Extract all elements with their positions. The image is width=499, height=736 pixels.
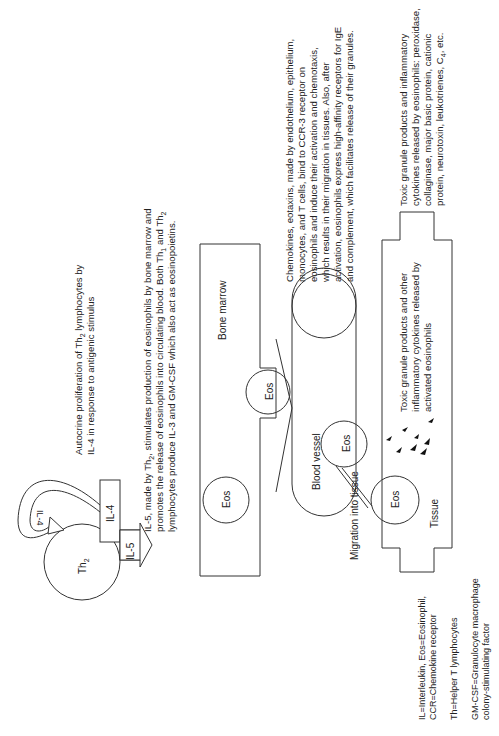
svg-text:IL-4 in response to antigenic: IL-4 in response to antigenic stimulus [85, 296, 96, 455]
tissue-label: Tissue [429, 498, 440, 528]
eosinophil-pathway-diagram: Th2 IL-4 IL-4 IL-5 Bone marrow Eos Eos B… [0, 0, 499, 736]
legend-gmcsf: GM-CSF=Granulocyte macrophage [470, 578, 480, 720]
released-granules [386, 418, 434, 455]
legend-th: Th=Helper T lymphocytes [449, 617, 459, 720]
svg-text:cytokines released by eosinoph: cytokines released by eosinophils: perox… [410, 8, 421, 206]
toxic-products-list-annotation: Toxic granule products and inflammatory … [398, 8, 447, 206]
bone-marrow-label: Bone marrow [217, 280, 228, 340]
il5-arrow-label: IL-5 [125, 542, 136, 560]
svg-text:protein, neurotoxin, leukotrie: protein, neurotoxin, leukotrienes, C4, e… [434, 33, 447, 207]
transmigration-lines [276, 339, 292, 492]
svg-text:collaginase, major basic prote: collaginase, major basic protein, cation… [422, 34, 433, 206]
legend-gmcsf-cont: colony-stimulating factor [481, 623, 491, 720]
eos-in-tissue-label: Eos [390, 491, 401, 508]
svg-text:Toxic granule products and oth: Toxic granule products and other [398, 272, 409, 412]
chemokines-annotation: Chemokines, eotaxins, made by endotheliu… [284, 27, 355, 283]
il4-arrow-label: IL-4 [35, 510, 45, 526]
svg-text:which results in their migrati: which results in their migration in tiss… [320, 62, 331, 283]
legend-il-eos: IL=Interleukin, Eos=Eosinophil, [417, 596, 427, 720]
svg-text:activated eosinophils: activated eosinophils [422, 323, 433, 412]
eos-crossing-label: Eos [264, 383, 275, 400]
blood-vessel-lumen-end [292, 274, 356, 338]
svg-text:monocytes, and T cells, bind: monocytes, and T cells, bind to CCR-3 re… [296, 67, 307, 282]
migration-label: Migration into tissue [349, 471, 360, 560]
svg-text:activation, eosinophils expres: activation, eosinophils express high-aff… [332, 27, 343, 282]
legend-ccr: CCR=Chemokine receptor [428, 614, 438, 720]
il4-arrowhead [48, 517, 64, 534]
toxic-products-tissue-annotation: Toxic granule products and other inflamm… [398, 262, 433, 412]
svg-text:Chemokines, eotaxins, made by: Chemokines, eotaxins, made by endotheliu… [284, 39, 295, 282]
legend: IL=Interleukin, Eos=Eosinophil, CCR=Chem… [417, 578, 491, 720]
blood-vessel [292, 268, 356, 516]
eos-in-marrow-label: Eos [221, 491, 232, 508]
svg-text:inflammatory cytokines release: inflammatory cytokines released by [410, 262, 421, 412]
autocrine-annotation: Autocrine proliferation of Th2 lymphocyt… [73, 264, 96, 455]
svg-text:lymphocytes produce IL-3 and G: lymphocytes produce IL-3 and GM-CSF whic… [166, 221, 177, 532]
eos-in-vessel-label: Eos [341, 435, 352, 452]
svg-text:eosinophils and induce their a: eosinophils and induce their activation … [308, 47, 319, 282]
svg-text:Toxic granule products and inf: Toxic granule products and inflammatory [398, 34, 409, 206]
il4-box-label: IL-4 [105, 504, 116, 522]
bone-marrow [200, 244, 276, 576]
il5-annotation: IL-5, made by Th2, stimulates production… [142, 208, 177, 532]
svg-text:and complement, which facilita: and complement, which facilitates releas… [344, 30, 355, 282]
th2-label: Th2 [77, 558, 90, 574]
blood-vessel-label: Blood vessel [311, 433, 322, 490]
